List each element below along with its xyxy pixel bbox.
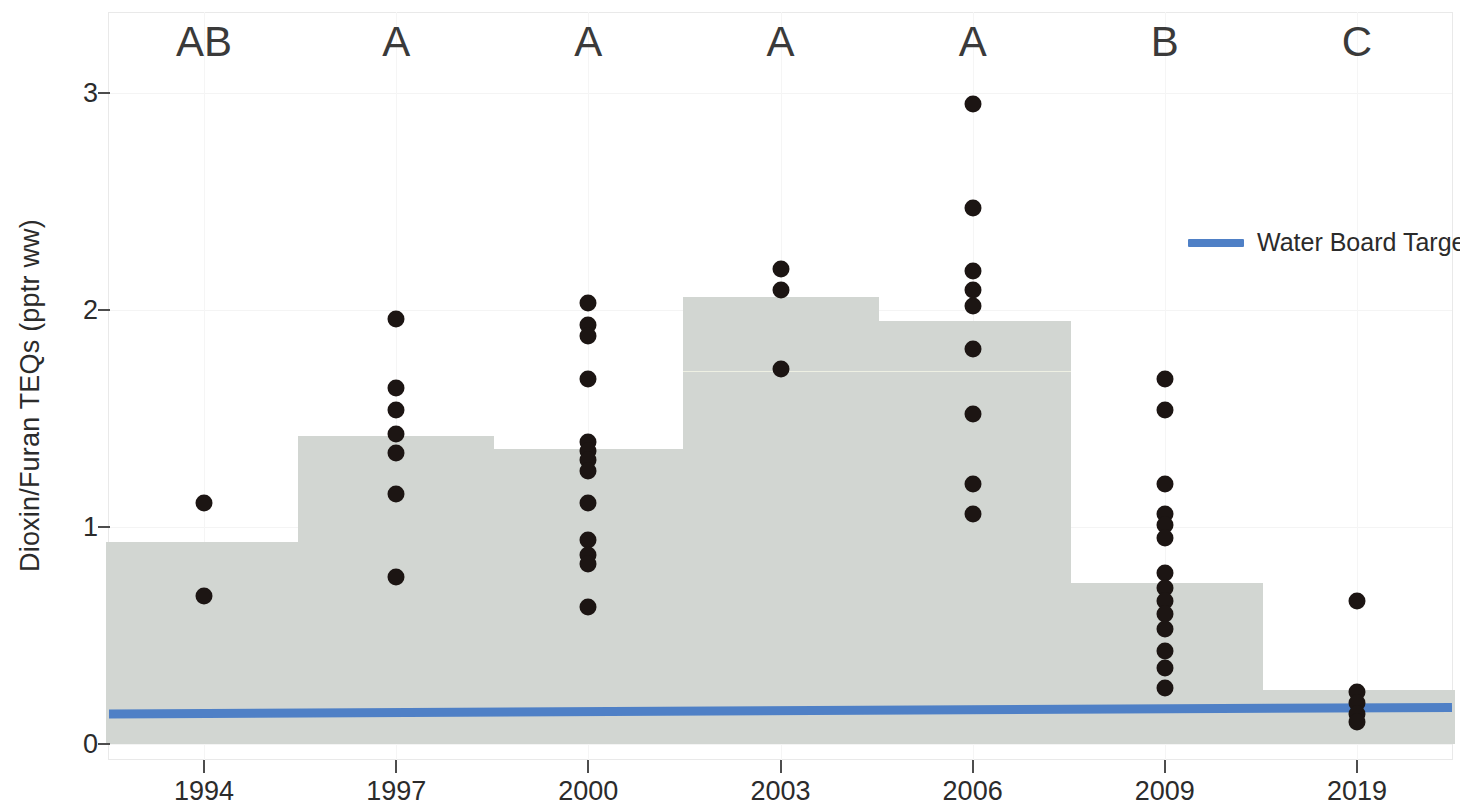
data-point[interactable] [964, 200, 981, 217]
group-label-1997: A [382, 18, 410, 66]
y-axis-title: Dioxin/Furan TEQs (pptr ww) [15, 116, 46, 676]
x-axis-tick-label-1994: 1994 [174, 776, 234, 807]
data-point[interactable] [580, 328, 597, 345]
data-point[interactable] [388, 568, 405, 585]
data-point[interactable] [580, 599, 597, 616]
data-point[interactable] [580, 462, 597, 479]
data-point[interactable] [964, 505, 981, 522]
data-point[interactable] [964, 406, 981, 423]
x-axis-tick-label-2000: 2000 [558, 776, 618, 807]
data-point[interactable] [1156, 371, 1173, 388]
group-label-1994: AB [176, 18, 232, 66]
data-point[interactable] [1156, 642, 1173, 659]
y-axis-tick-mark-3 [98, 92, 110, 94]
data-point[interactable] [388, 486, 405, 503]
data-point[interactable] [388, 380, 405, 397]
data-point[interactable] [1156, 401, 1173, 418]
y-axis-tick-mark-1 [98, 526, 110, 528]
gridline-x-2019 [1357, 12, 1358, 760]
y-axis-tick-label-2: 2 [83, 295, 98, 326]
data-point[interactable] [964, 475, 981, 492]
x-axis-tick-label-2006: 2006 [943, 776, 1003, 807]
legend-label-water-board-target: Water Board Target [1257, 228, 1460, 257]
data-point[interactable] [580, 495, 597, 512]
data-point[interactable] [1156, 679, 1173, 696]
x-axis-tick-label-1997: 1997 [366, 776, 426, 807]
group-label-2003: A [766, 18, 794, 66]
data-point[interactable] [1156, 475, 1173, 492]
y-axis-tick-mark-2 [98, 309, 110, 311]
x-axis-tick-label-2003: 2003 [750, 776, 810, 807]
x-axis-tick-mark-2019 [1356, 760, 1358, 773]
bar-2006[interactable] [875, 321, 1071, 744]
data-point[interactable] [772, 260, 789, 277]
data-point[interactable] [964, 95, 981, 112]
data-point[interactable] [1156, 660, 1173, 677]
bar-2000[interactable] [490, 449, 686, 744]
data-point[interactable] [196, 495, 213, 512]
x-axis-tick-mark-2003 [780, 760, 782, 773]
data-point[interactable] [772, 282, 789, 299]
data-point[interactable] [1348, 714, 1365, 731]
legend-line-swatch-water-board-target [1188, 239, 1244, 247]
data-point[interactable] [964, 262, 981, 279]
x-axis-tick-mark-2000 [587, 760, 589, 773]
group-label-2000: A [574, 18, 602, 66]
x-axis-tick-mark-1994 [203, 760, 205, 773]
y-axis-tick-label-1: 1 [83, 512, 98, 543]
group-label-2019: C [1342, 18, 1372, 66]
y-axis-tick-label-3: 3 [83, 78, 98, 109]
x-axis-tick-mark-2006 [972, 760, 974, 773]
x-axis-tick-mark-2009 [1164, 760, 1166, 773]
legend: Water Board Target [1188, 228, 1460, 257]
data-point[interactable] [1156, 529, 1173, 546]
data-point[interactable] [580, 371, 597, 388]
data-point[interactable] [388, 425, 405, 442]
data-point[interactable] [772, 360, 789, 377]
x-axis-tick-label-2009: 2009 [1135, 776, 1195, 807]
chart-canvas: Dioxin/Furan TEQs (pptr ww) 0123 1994199… [0, 0, 1460, 812]
data-point[interactable] [1156, 620, 1173, 637]
data-point[interactable] [580, 555, 597, 572]
data-point[interactable] [1348, 592, 1365, 609]
data-point[interactable] [388, 310, 405, 327]
group-label-2006: A [959, 18, 987, 66]
data-point[interactable] [388, 401, 405, 418]
data-point[interactable] [964, 297, 981, 314]
y-axis-tick-mark-0 [98, 743, 110, 745]
x-axis-tick-mark-1997 [395, 760, 397, 773]
data-point[interactable] [964, 341, 981, 358]
y-axis-tick-label-0: 0 [83, 729, 98, 760]
group-label-2009: B [1151, 18, 1179, 66]
bar-inner-line-2006 [875, 371, 1071, 372]
x-axis-tick-label-2019: 2019 [1327, 776, 1387, 807]
data-point[interactable] [388, 445, 405, 462]
data-point[interactable] [580, 295, 597, 312]
bar-1997[interactable] [298, 436, 494, 744]
data-point[interactable] [196, 588, 213, 605]
